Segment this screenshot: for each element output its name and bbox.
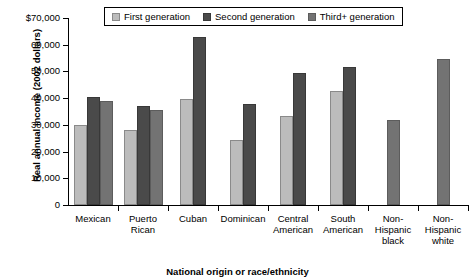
- x-axis-tick: [218, 205, 219, 211]
- bar-group: [418, 18, 468, 205]
- x-axis-tick: [318, 205, 319, 211]
- legend-item: Second generation: [203, 11, 295, 22]
- bar-first-generation: [230, 140, 243, 205]
- bar-group: [268, 18, 318, 205]
- y-axis-tick-label: 30,000: [4, 119, 60, 130]
- bar-first-generation: [280, 116, 293, 205]
- legend-swatch-icon: [112, 13, 120, 21]
- bar-second-generation: [293, 73, 306, 205]
- bar-group: [218, 18, 268, 205]
- y-axis-tick-label: 40,000: [4, 92, 60, 103]
- x-axis-tick: [118, 205, 119, 211]
- x-axis-tick: [468, 205, 469, 211]
- x-axis-category-label: Non-Hispanicblack: [368, 213, 418, 246]
- x-axis-title: National origin or race/ethnicity: [0, 266, 475, 277]
- bar-second-generation: [343, 67, 356, 205]
- bar-third-generation: [437, 59, 450, 205]
- bar-first-generation: [330, 91, 343, 205]
- bar-first-generation: [74, 125, 87, 205]
- y-axis-tick-label: 0: [4, 199, 60, 210]
- x-axis-category-label: CentralAmerican: [268, 213, 318, 235]
- x-axis-tick: [368, 205, 369, 211]
- y-axis-tick-label: 50,000: [4, 65, 60, 76]
- x-axis-category-label: SouthAmerican: [318, 213, 368, 235]
- x-axis-category-label: Mexican: [68, 213, 118, 224]
- legend-swatch-icon: [308, 13, 316, 21]
- x-axis-tick: [168, 205, 169, 211]
- income-by-generation-bar-chart: Real annual income (2002 dollars) $70,00…: [0, 0, 475, 278]
- bar-group: [118, 18, 168, 205]
- bar-second-generation: [87, 97, 100, 205]
- x-axis-category-label: Dominican: [218, 213, 268, 224]
- x-axis-category-label: PuertoRican: [118, 213, 168, 235]
- legend-item: First generation: [112, 11, 190, 22]
- x-axis-category-label: Non-Hispanicwhite: [418, 213, 468, 246]
- bar-second-generation: [137, 106, 150, 205]
- legend-swatch-icon: [203, 13, 211, 21]
- plot-area: [68, 18, 468, 205]
- bar-third-generation: [150, 110, 163, 205]
- bar-group: [318, 18, 368, 205]
- legend-item-label: Second generation: [215, 11, 295, 22]
- bar-group: [368, 18, 418, 205]
- bar-group: [68, 18, 118, 205]
- legend-item-label: First generation: [124, 11, 190, 22]
- legend: First generationSecond generationThird+ …: [104, 7, 403, 26]
- legend-item: Third+ generation: [308, 11, 395, 22]
- bar-third-generation: [387, 120, 400, 205]
- legend-item-label: Third+ generation: [320, 11, 395, 22]
- bar-second-generation: [193, 37, 206, 205]
- x-axis-category-label: Cuban: [168, 213, 218, 224]
- x-axis-tick: [268, 205, 269, 211]
- bar-group: [168, 18, 218, 205]
- bar-first-generation: [180, 99, 193, 205]
- y-axis-tick-label: $70,000: [4, 12, 60, 23]
- y-axis-tick-label: 20,000: [4, 146, 60, 157]
- bar-third-generation: [100, 101, 113, 205]
- bar-second-generation: [243, 104, 256, 206]
- y-axis-tick-label: 60,000: [4, 39, 60, 50]
- x-axis-tick: [418, 205, 419, 211]
- y-axis-tick-label: 10,000: [4, 172, 60, 183]
- bar-first-generation: [124, 130, 137, 205]
